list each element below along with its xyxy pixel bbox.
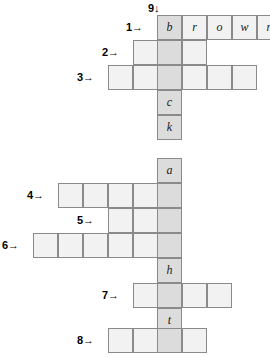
crossword-cell-empty[interactable] xyxy=(157,65,182,90)
clue-label-1: 1→ xyxy=(126,15,143,40)
clue-label-3: 3→ xyxy=(77,65,94,90)
crossword-cell-empty[interactable] xyxy=(133,208,158,233)
crossword-cell-filled[interactable]: k xyxy=(157,115,182,140)
crossword-cell-filled[interactable]: c xyxy=(157,90,182,115)
crossword-cell-filled[interactable]: h xyxy=(157,258,182,283)
clue-label-6: 6→ xyxy=(2,233,19,258)
crossword-cell-empty[interactable] xyxy=(182,283,207,308)
crossword-cell-filled[interactable]: b xyxy=(157,15,182,40)
crossword-cell-empty[interactable] xyxy=(157,233,182,258)
clue-label-9: 9↓ xyxy=(148,1,160,15)
crossword-cell-empty[interactable] xyxy=(83,183,108,208)
crossword-cell-empty[interactable] xyxy=(58,183,83,208)
crossword-cell-filled[interactable]: w xyxy=(232,15,257,40)
crossword-cell-empty[interactable] xyxy=(182,328,207,353)
crossword-cell-empty[interactable] xyxy=(133,183,158,208)
crossword-cell-empty[interactable] xyxy=(182,65,207,90)
crossword-cell-empty[interactable] xyxy=(157,183,182,208)
crossword-cell-empty[interactable] xyxy=(157,40,182,65)
crossword-cell-empty[interactable] xyxy=(133,233,158,258)
crossword-cell-empty[interactable] xyxy=(133,328,158,353)
crossword-cell-filled[interactable]: n xyxy=(257,15,270,40)
crossword-cell-filled[interactable]: a xyxy=(157,158,182,183)
crossword-cell-empty[interactable] xyxy=(157,208,182,233)
crossword-cell-empty[interactable] xyxy=(58,233,83,258)
crossword-cell-empty[interactable] xyxy=(33,233,58,258)
crossword-cell-empty[interactable] xyxy=(182,40,207,65)
crossword-cell-filled[interactable]: r xyxy=(182,15,207,40)
crossword-cell-empty[interactable] xyxy=(133,65,158,90)
crossword-cell-empty[interactable] xyxy=(157,283,182,308)
crossword-cell-empty[interactable] xyxy=(133,283,158,308)
crossword-cell-filled[interactable]: o xyxy=(207,15,232,40)
crossword-cell-empty[interactable] xyxy=(108,65,133,90)
crossword-cell-empty[interactable] xyxy=(108,328,133,353)
crossword-cell-empty[interactable] xyxy=(207,283,232,308)
crossword-cell-empty[interactable] xyxy=(108,183,133,208)
clue-label-7: 7→ xyxy=(102,283,119,308)
crossword-cell-empty[interactable] xyxy=(108,233,133,258)
crossword-cell-empty[interactable] xyxy=(207,65,232,90)
clue-label-2: 2→ xyxy=(102,40,119,65)
crossword-cell-empty[interactable] xyxy=(133,40,158,65)
crossword-grid: 9↓1→2→3→4→5→6→7→8→brownckaht xyxy=(0,0,270,357)
clue-label-8: 8→ xyxy=(77,328,94,353)
crossword-cell-empty[interactable] xyxy=(157,328,182,353)
crossword-cell-empty[interactable] xyxy=(108,208,133,233)
clue-label-4: 4→ xyxy=(27,183,44,208)
crossword-cell-empty[interactable] xyxy=(232,65,257,90)
clue-label-5: 5→ xyxy=(77,208,94,233)
crossword-cell-empty[interactable] xyxy=(83,233,108,258)
